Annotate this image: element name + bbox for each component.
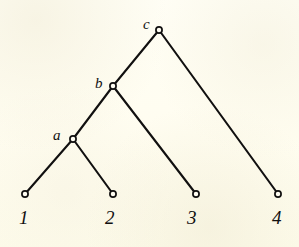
node-label-b: b: [95, 76, 103, 91]
tree-nodes-group: [22, 27, 281, 197]
tree-node-marker-leaf2: [110, 191, 116, 197]
tree-edge-c-b: [113, 30, 159, 86]
tree-node-marker-leaf1: [22, 191, 28, 197]
tree-canvas: [0, 0, 299, 247]
node-label-c: c: [143, 17, 150, 32]
tree-node-marker-a: [70, 136, 76, 142]
leaf-label-1: 1: [19, 208, 29, 227]
tree-node-marker-leaf4: [275, 191, 281, 197]
tree-node-marker-b: [110, 83, 116, 89]
node-label-a: a: [53, 128, 61, 143]
tree-edge-b-a: [73, 86, 113, 139]
leaf-label-4: 4: [272, 208, 282, 227]
tree-edge-a-leaf1: [25, 139, 73, 194]
tree-edge-b-leaf3: [113, 86, 196, 194]
tree-node-marker-leaf3: [193, 191, 199, 197]
leaf-label-3: 3: [187, 208, 197, 227]
tree-diagram-figure: c b a 1 2 3 4: [0, 0, 299, 247]
tree-node-marker-c: [156, 27, 162, 33]
tree-edges-group: [25, 30, 278, 194]
tree-edge-a-leaf2: [73, 139, 113, 194]
leaf-label-2: 2: [105, 208, 115, 227]
